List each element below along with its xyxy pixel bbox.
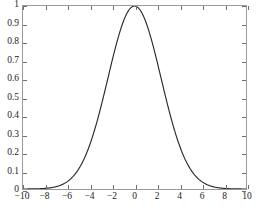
y-tick-mark bbox=[23, 173, 27, 174]
x-tick-label: 4 bbox=[177, 191, 182, 201]
y-tick-label: 0.4 bbox=[7, 111, 19, 121]
y-tick-mark bbox=[23, 6, 27, 7]
y-tick-label: 0.7 bbox=[7, 56, 19, 66]
y-tick-mark bbox=[23, 43, 27, 44]
x-tick-mark bbox=[113, 185, 114, 189]
y-tick-mark bbox=[23, 136, 27, 137]
x-tick-mark bbox=[113, 6, 114, 10]
x-tick-mark bbox=[248, 185, 249, 189]
y-tick-mark bbox=[23, 117, 27, 118]
x-tick-mark bbox=[181, 6, 182, 10]
x-tick-label: −8 bbox=[39, 191, 49, 201]
y-tick-mark bbox=[23, 25, 27, 26]
x-tick-mark bbox=[23, 185, 24, 189]
x-tick-label: −2 bbox=[107, 191, 117, 201]
y-tick-label: 0.2 bbox=[7, 148, 19, 158]
x-tick-label: 0 bbox=[132, 191, 137, 201]
x-tick-mark bbox=[68, 185, 69, 189]
x-tick-label: 8 bbox=[222, 191, 227, 201]
plot-area bbox=[22, 5, 247, 190]
y-tick-mark bbox=[23, 99, 27, 100]
x-tick-mark bbox=[68, 6, 69, 10]
y-tick-label: 0.1 bbox=[7, 167, 19, 177]
x-tick-mark bbox=[158, 6, 159, 10]
x-tick-label: 10 bbox=[242, 191, 252, 201]
x-tick-label: −10 bbox=[15, 191, 30, 201]
x-tick-label: 2 bbox=[155, 191, 160, 201]
y-tick-label: 0.8 bbox=[7, 37, 19, 47]
y-tick-mark bbox=[242, 99, 246, 100]
x-tick-mark bbox=[181, 185, 182, 189]
y-tick-mark bbox=[242, 80, 246, 81]
gaussian-curve bbox=[23, 6, 246, 189]
x-tick-mark bbox=[158, 185, 159, 189]
x-tick-mark bbox=[91, 6, 92, 10]
y-tick-mark bbox=[23, 154, 27, 155]
y-tick-mark bbox=[23, 62, 27, 63]
y-tick-mark bbox=[242, 117, 246, 118]
y-tick-label: 0.6 bbox=[7, 74, 19, 84]
x-tick-mark bbox=[136, 185, 137, 189]
y-tick-label: 1 bbox=[14, 0, 19, 10]
y-tick-mark bbox=[23, 80, 27, 81]
y-tick-label: 0.5 bbox=[7, 93, 19, 103]
x-tick-mark bbox=[46, 185, 47, 189]
y-tick-label: 0.3 bbox=[7, 130, 19, 140]
y-tick-mark bbox=[242, 173, 246, 174]
x-tick-mark bbox=[203, 6, 204, 10]
y-tick-mark bbox=[242, 62, 246, 63]
x-tick-mark bbox=[248, 6, 249, 10]
y-tick-mark bbox=[242, 136, 246, 137]
x-tick-mark bbox=[136, 6, 137, 10]
x-tick-mark bbox=[91, 185, 92, 189]
x-tick-mark bbox=[226, 185, 227, 189]
y-tick-mark bbox=[242, 43, 246, 44]
gaussian-curve-path bbox=[23, 6, 246, 189]
figure-container: 00.10.20.30.40.50.60.70.80.91 −10−8−6−4−… bbox=[0, 0, 256, 219]
x-tick-label: 6 bbox=[200, 191, 205, 201]
y-tick-mark bbox=[242, 25, 246, 26]
x-tick-mark bbox=[46, 6, 47, 10]
x-tick-label: −6 bbox=[62, 191, 72, 201]
x-tick-mark bbox=[226, 6, 227, 10]
y-tick-mark bbox=[242, 6, 246, 7]
y-tick-mark bbox=[242, 154, 246, 155]
y-tick-label: 0.9 bbox=[7, 19, 19, 29]
x-tick-label: −4 bbox=[84, 191, 94, 201]
x-tick-mark bbox=[203, 185, 204, 189]
